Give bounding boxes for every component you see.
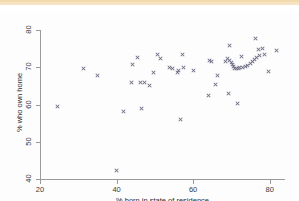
data-point xyxy=(147,83,152,88)
y-tick-label: 70 xyxy=(24,61,33,73)
x-tick-mark xyxy=(40,180,41,184)
x-tick-label: 60 xyxy=(183,185,203,194)
data-point xyxy=(114,168,119,173)
data-point xyxy=(139,106,144,111)
data-point xyxy=(95,73,100,78)
data-point xyxy=(129,80,134,85)
data-point xyxy=(178,117,183,122)
data-point xyxy=(262,52,267,57)
data-point xyxy=(55,104,60,109)
y-tick-label: 40 xyxy=(24,173,33,185)
x-axis-title: % born in state of residence xyxy=(40,196,285,201)
x-tick-mark xyxy=(193,180,194,184)
x-tick-mark xyxy=(117,180,118,184)
data-point xyxy=(215,73,220,78)
data-point xyxy=(206,93,211,98)
plot-area xyxy=(40,30,285,179)
y-tick-label: 80 xyxy=(24,24,33,36)
figure-surround: 4050607080 20406080 % born in state of r… xyxy=(0,5,299,201)
data-point xyxy=(158,56,163,61)
data-point xyxy=(81,66,86,71)
data-point xyxy=(213,82,218,87)
data-point xyxy=(253,36,258,41)
x-axis-line xyxy=(40,179,285,180)
y-axis-title: % who own home xyxy=(15,48,24,158)
data-point xyxy=(130,62,135,67)
x-tick-label: 80 xyxy=(260,185,280,194)
x-tick-label: 20 xyxy=(30,185,50,194)
data-point xyxy=(209,59,214,64)
data-point xyxy=(235,101,240,106)
data-point xyxy=(226,91,231,96)
x-tick-label: 40 xyxy=(107,185,127,194)
top-band-inner xyxy=(0,0,299,2)
data-point xyxy=(121,109,126,114)
data-point xyxy=(239,54,244,59)
data-point xyxy=(260,46,265,51)
data-point xyxy=(191,68,196,73)
y-tick-label: 50 xyxy=(24,135,33,147)
scatter-chart: 4050607080 20406080 % born in state of r… xyxy=(0,13,299,201)
data-point xyxy=(151,70,156,75)
data-point xyxy=(181,65,186,70)
data-point xyxy=(180,52,185,57)
data-point xyxy=(274,48,279,53)
data-point xyxy=(170,66,175,71)
data-point xyxy=(135,55,140,60)
x-tick-mark xyxy=(270,180,271,184)
screenshot-root: 4050607080 20406080 % born in state of r… xyxy=(0,0,299,201)
data-point xyxy=(266,69,271,74)
data-point xyxy=(227,43,232,48)
y-tick-label: 60 xyxy=(24,98,33,110)
